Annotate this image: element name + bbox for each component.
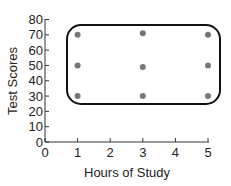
x-tick-label: 3 (139, 145, 146, 160)
x-tick-label: 1 (74, 145, 81, 160)
data-point (75, 93, 81, 99)
data-point (75, 32, 81, 38)
y-ticks: 01020304050607080 (29, 12, 49, 150)
x-axis-label: Hours of Study (84, 165, 170, 180)
y-axis-label: Test Scores (5, 47, 20, 115)
y-tick-label: 50 (29, 58, 43, 73)
data-point (140, 93, 146, 99)
y-tick-label: 20 (29, 104, 43, 119)
y-tick-label: 40 (29, 73, 43, 88)
y-tick-label: 70 (29, 27, 43, 42)
x-ticks: 012345 (41, 138, 211, 160)
x-tick-label: 0 (41, 145, 48, 160)
x-tick-label: 2 (107, 145, 114, 160)
data-point (205, 93, 211, 99)
y-tick-label: 60 (29, 43, 43, 58)
y-tick-label: 30 (29, 89, 43, 104)
data-point (205, 62, 211, 68)
x-tick-label: 5 (204, 145, 211, 160)
y-tick-label: 80 (29, 12, 43, 27)
data-point (205, 32, 211, 38)
y-tick-label: 10 (29, 119, 43, 134)
data-point (140, 64, 146, 70)
data-point (75, 62, 81, 68)
data-point (140, 30, 146, 36)
x-tick-label: 4 (172, 145, 179, 160)
scatter-chart: 01020304050607080 012345 Hours of Study … (0, 0, 231, 186)
data-points (75, 30, 211, 99)
